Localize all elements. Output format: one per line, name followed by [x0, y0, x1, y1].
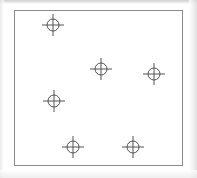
crosshair-marker: [62, 136, 84, 158]
scan-artifact-left: [0, 0, 4, 178]
scan-artifact-right: [189, 0, 197, 178]
crosshair-marker: [43, 90, 65, 112]
scan-artifact-top: [0, 0, 197, 4]
scan-artifact-bottom: [0, 170, 197, 178]
crosshair-marker: [42, 14, 64, 36]
scatter-plot-area: [15, 11, 182, 165]
crosshair-marker: [90, 58, 112, 80]
crosshair-marker: [122, 136, 144, 158]
crosshair-marker: [143, 63, 165, 85]
drawing-border: [14, 10, 183, 166]
scanned-diagram-page: [0, 0, 197, 178]
